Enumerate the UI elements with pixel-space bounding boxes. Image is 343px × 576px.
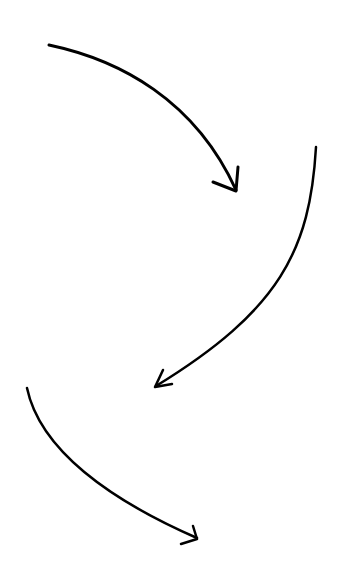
diagram-canvas — [0, 0, 343, 576]
arrow-3-shaft — [27, 388, 197, 538]
curved-arrow-1 — [49, 45, 238, 191]
curved-arrow-3 — [27, 388, 197, 544]
arrow-1-shaft — [49, 45, 236, 190]
arrows-svg — [0, 0, 343, 576]
